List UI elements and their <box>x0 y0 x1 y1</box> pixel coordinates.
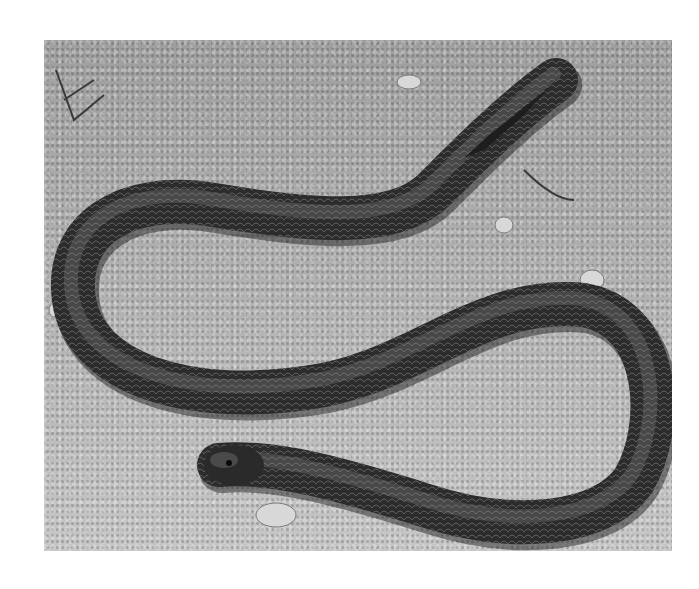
snake-sheen <box>71 74 651 516</box>
snake-head <box>204 445 264 485</box>
snake-photograph <box>44 40 672 551</box>
snake-eye <box>226 460 232 466</box>
snake-illustration <box>44 40 672 551</box>
